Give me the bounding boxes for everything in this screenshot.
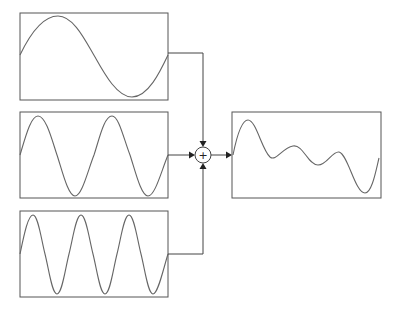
summing-junction: +: [195, 147, 211, 163]
arrowhead-right: [189, 152, 195, 159]
signal-box-3: [20, 211, 168, 297]
arrowhead-up: [200, 163, 207, 169]
wire-from-signal-1: [168, 53, 203, 142]
arrowhead-down: [200, 141, 207, 147]
arrowhead-output: [226, 152, 232, 159]
signal-sum-diagram: +: [0, 0, 400, 312]
input-signal-1: [20, 13, 168, 100]
input-signal-2: [20, 112, 168, 198]
output-signal: [232, 112, 381, 198]
plus-icon: +: [198, 149, 207, 162]
input-signal-3: [20, 211, 168, 297]
signal-box-1: [20, 13, 168, 100]
wire-from-signal-3: [168, 168, 203, 254]
